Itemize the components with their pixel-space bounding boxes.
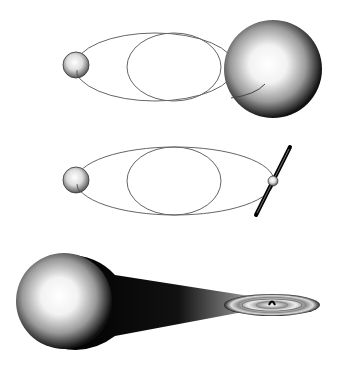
accretion-disk xyxy=(224,294,320,316)
inner-orbit xyxy=(127,33,221,101)
panel-1 xyxy=(63,20,322,118)
panel-3 xyxy=(16,253,320,350)
binary-star-diagram xyxy=(0,0,339,374)
inner-orbit xyxy=(127,147,221,215)
panel-2 xyxy=(63,147,290,215)
outer-orbit xyxy=(75,33,235,101)
small-star xyxy=(63,52,89,78)
outer-orbit xyxy=(76,147,274,215)
donor-star xyxy=(16,253,112,349)
giant-star xyxy=(224,20,322,118)
compact-object xyxy=(268,176,278,186)
small-star xyxy=(63,167,89,193)
